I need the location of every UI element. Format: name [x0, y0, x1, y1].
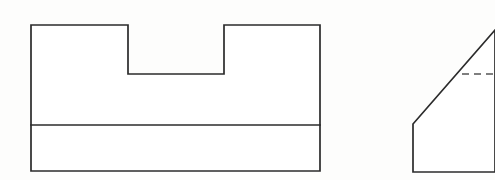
technical-drawing-canvas: [0, 0, 495, 180]
front-view-fill: [31, 25, 320, 171]
side-view: [413, 30, 495, 172]
drawing-svg: [0, 0, 495, 180]
front-view: [31, 25, 320, 171]
side-view-fill: [413, 30, 495, 172]
